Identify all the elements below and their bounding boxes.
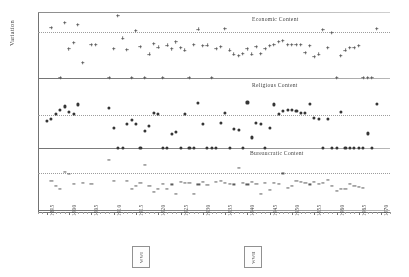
data-point-religious bbox=[126, 122, 129, 125]
data-point-religious bbox=[112, 126, 115, 129]
data-point-economic bbox=[157, 46, 160, 49]
x-axis-minor-tick bbox=[288, 212, 289, 214]
data-point-religious bbox=[250, 136, 253, 139]
data-point-religious bbox=[313, 116, 316, 119]
annotation-box-wwi: WWI bbox=[132, 246, 150, 268]
data-point-bureaucratic bbox=[353, 185, 356, 186]
x-axis-tick-label: 1945 bbox=[272, 205, 278, 216]
x-axis-tick-label: 1920 bbox=[160, 205, 166, 216]
data-point-religious bbox=[326, 117, 329, 120]
data-point-bureaucratic bbox=[134, 186, 137, 187]
data-point-economic bbox=[179, 46, 182, 49]
data-point-bureaucratic bbox=[264, 183, 267, 184]
data-point-bureaucratic bbox=[148, 186, 151, 187]
data-point-economic bbox=[304, 51, 307, 54]
data-point-economic bbox=[94, 43, 97, 46]
data-point-bureaucratic bbox=[201, 181, 204, 182]
y-axis-label: Variation bbox=[8, 0, 22, 78]
data-point-economic bbox=[116, 14, 119, 17]
data-point-economic bbox=[192, 43, 195, 46]
data-point-bureaucratic bbox=[308, 184, 311, 185]
data-point-economic bbox=[228, 49, 231, 52]
panel-title-economic: Economic Content bbox=[252, 16, 299, 22]
annotation-label-wwi: WWI bbox=[139, 252, 144, 263]
data-point-bureaucratic bbox=[228, 183, 231, 184]
x-axis-tick-label: 1940 bbox=[249, 205, 255, 216]
x-axis-minor-tick bbox=[127, 212, 128, 214]
x-axis-minor-tick bbox=[132, 212, 133, 214]
data-point-economic bbox=[268, 44, 271, 47]
plot-top-border bbox=[38, 12, 390, 13]
data-point-religious bbox=[317, 117, 320, 120]
data-point-bureaucratic bbox=[259, 194, 262, 195]
data-point-religious bbox=[148, 125, 151, 128]
data-point-economic bbox=[170, 47, 173, 50]
x-axis-tick bbox=[359, 212, 360, 215]
x-axis-tick-label: 1950 bbox=[294, 205, 300, 216]
x-axis-tick bbox=[114, 212, 115, 215]
reference-line-religious bbox=[38, 115, 390, 116]
data-point-economic bbox=[90, 43, 93, 46]
x-axis-minor-tick bbox=[354, 212, 355, 214]
x-axis-minor-tick bbox=[145, 212, 146, 214]
x-axis-minor-tick bbox=[261, 212, 262, 214]
data-point-religious bbox=[77, 103, 80, 106]
data-point-economic bbox=[264, 47, 267, 50]
x-axis-tick bbox=[337, 212, 338, 215]
data-point-religious bbox=[219, 121, 222, 124]
data-point-bureaucratic bbox=[192, 193, 195, 194]
data-point-economic bbox=[326, 46, 329, 49]
data-point-bureaucratic bbox=[63, 171, 66, 172]
data-point-economic bbox=[255, 45, 258, 48]
data-point-religious bbox=[366, 132, 369, 135]
data-point-bureaucratic bbox=[157, 188, 160, 189]
data-point-economic bbox=[353, 46, 356, 49]
x-axis-tick bbox=[225, 212, 226, 215]
data-point-religious bbox=[175, 130, 178, 133]
x-axis-minor-tick bbox=[189, 212, 190, 214]
x-axis-minor-tick bbox=[38, 212, 39, 214]
panel-title-religious: Religious Content bbox=[252, 82, 298, 88]
data-point-religious bbox=[246, 101, 249, 104]
data-point-bureaucratic bbox=[322, 182, 325, 183]
data-point-economic bbox=[281, 39, 284, 42]
x-axis-minor-tick bbox=[377, 212, 378, 214]
panel-title-bureaucratic: Bureaucratic Content bbox=[250, 150, 304, 156]
x-axis-tick-label: 1925 bbox=[183, 205, 189, 216]
x-axis-tick-label: 1905 bbox=[93, 205, 99, 216]
data-point-bureaucratic bbox=[313, 182, 316, 183]
data-point-religious bbox=[255, 121, 258, 124]
x-axis-tick-label: 1955 bbox=[316, 205, 322, 216]
data-point-bureaucratic bbox=[317, 183, 320, 184]
data-point-bureaucratic bbox=[357, 186, 360, 187]
data-point-bureaucratic bbox=[219, 180, 222, 181]
data-point-bureaucratic bbox=[143, 165, 146, 166]
data-point-bureaucratic bbox=[348, 183, 351, 184]
data-point-bureaucratic bbox=[59, 189, 62, 190]
x-axis-minor-tick bbox=[56, 212, 57, 214]
data-point-economic bbox=[139, 45, 142, 48]
x-axis-minor-tick bbox=[390, 212, 391, 214]
data-point-economic bbox=[206, 44, 209, 47]
panel-baseline-bureaucratic bbox=[38, 210, 390, 211]
data-point-economic bbox=[201, 44, 204, 47]
x-axis-minor-tick bbox=[87, 212, 88, 214]
data-point-bureaucratic bbox=[215, 182, 218, 183]
data-point-religious bbox=[201, 122, 204, 125]
x-axis-minor-tick bbox=[234, 212, 235, 214]
data-point-religious bbox=[273, 103, 276, 106]
x-axis-minor-tick bbox=[42, 212, 43, 214]
x-axis-minor-tick bbox=[105, 212, 106, 214]
plot-area bbox=[38, 12, 390, 212]
x-axis-tick-label: 1960 bbox=[339, 205, 345, 216]
x-axis-minor-tick bbox=[310, 212, 311, 214]
data-point-economic bbox=[299, 43, 302, 46]
x-axis-minor-tick bbox=[283, 212, 284, 214]
x-axis-minor-tick bbox=[167, 212, 168, 214]
data-point-bureaucratic bbox=[335, 190, 338, 191]
data-point-economic bbox=[348, 46, 351, 49]
data-point-bureaucratic bbox=[224, 182, 227, 183]
x-axis-minor-tick bbox=[332, 212, 333, 214]
x-axis-tick-label: 1895 bbox=[49, 205, 55, 216]
x-axis-minor-tick bbox=[123, 212, 124, 214]
